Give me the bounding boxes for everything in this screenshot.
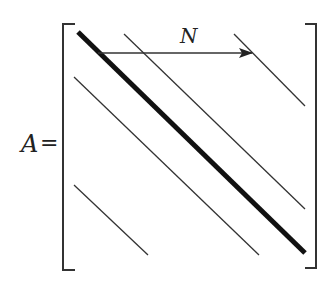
banded-matrix-diagram: A = N: [0, 0, 336, 284]
matrix-label: A: [19, 130, 38, 158]
arrow-label: N: [179, 24, 199, 48]
main-diagonal: [78, 32, 305, 253]
superdiagonal-near: [124, 34, 305, 209]
subdiagonal-far: [74, 185, 148, 255]
left-bracket: [63, 24, 75, 270]
right-bracket: [305, 24, 316, 268]
equals-sign: =: [40, 130, 58, 155]
subdiagonal-near: [74, 77, 259, 255]
superdiagonal-far: [234, 34, 305, 106]
